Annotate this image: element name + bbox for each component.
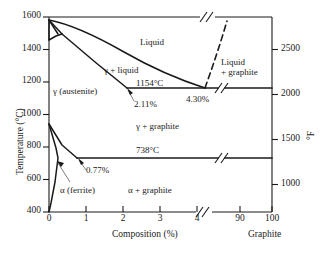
y-tick-label-1200: 1200 xyxy=(14,76,41,86)
phase-boundary-curves xyxy=(49,20,272,212)
curve-liquidus-gamma xyxy=(49,20,205,88)
annotation-eutectic-temp: 1154°C xyxy=(136,79,163,88)
x-axis-title: Composition (%) xyxy=(112,230,178,240)
leader-alpha-ferrite xyxy=(58,163,70,182)
x-tick-label-2: 2 xyxy=(115,214,131,224)
region-label-alpha-ferrite: α (ferrite) xyxy=(60,186,95,195)
liquid-plus-graphite-line1: Liquid xyxy=(221,57,258,67)
x-tick-label-0: 0 xyxy=(41,214,57,224)
curve-solidus-gamma xyxy=(62,34,127,88)
arrowhead-2-11-percent xyxy=(127,88,133,95)
annotation-4-30-percent: 4.30% xyxy=(186,95,209,104)
x-tick-label-100: 100 xyxy=(261,214,283,224)
y-tick-label-600: 600 xyxy=(14,174,41,184)
liquid-plus-graphite-line2: + graphite xyxy=(221,67,258,77)
x-axis-ticks xyxy=(49,206,272,212)
x-tick-label-3: 3 xyxy=(152,214,168,224)
y-tick-label-800: 800 xyxy=(14,141,41,151)
annotation-arrowheads xyxy=(57,88,133,167)
curve-delta-gamma-boundary xyxy=(49,34,62,40)
y2-tick-label-1500: 1500 xyxy=(281,134,300,144)
region-label-liquid: Liquid xyxy=(140,38,164,47)
arrowhead-alpha-ferrite xyxy=(57,161,64,167)
x-tick-label-4: 4 xyxy=(189,214,205,224)
y-tick-label-1000: 1000 xyxy=(14,109,41,119)
y-tick-label-1400: 1400 xyxy=(14,44,41,54)
x-tick-label-90: 90 xyxy=(231,214,249,224)
y2-tick-label-2000: 2000 xyxy=(281,89,300,99)
y-tick-label-1600: 1600 xyxy=(14,11,41,21)
region-label-gamma-plus-liquid: γ + liquid xyxy=(104,66,139,75)
region-label-gamma-austenite: γ (austenite) xyxy=(53,87,97,96)
annotation-0-77-percent: 0.77% xyxy=(86,166,109,175)
x-axis-graphite-label: Graphite xyxy=(248,230,281,240)
y-axis-ticks-celsius xyxy=(43,17,49,212)
y-axis-ticks-fahrenheit xyxy=(272,50,278,185)
y2-tick-label-2500: 2500 xyxy=(281,44,300,54)
phase-diagram-figure: Temperature (°C) °F Composition (%) Grap… xyxy=(0,0,331,258)
axis-break-marks xyxy=(196,12,228,217)
region-label-liquid-plus-graphite: Liquid + graphite xyxy=(221,57,258,78)
arrowhead-0-77-percent xyxy=(78,158,84,165)
x-tick-label-1: 1 xyxy=(78,214,94,224)
annotation-eutectoid-temp: 738°C xyxy=(136,146,159,155)
y-tick-label-400: 400 xyxy=(14,206,41,216)
curve-liquid-graphite-liquidus xyxy=(205,21,227,88)
y2-tick-label-1000: 1000 xyxy=(281,179,300,189)
y2-axis-title: °F xyxy=(307,131,317,140)
region-label-alpha-plus-graphite: α + graphite xyxy=(128,186,172,195)
region-label-gamma-plus-graphite: γ + graphite xyxy=(136,122,179,131)
annotation-2-11-percent: 2.11% xyxy=(134,100,157,109)
